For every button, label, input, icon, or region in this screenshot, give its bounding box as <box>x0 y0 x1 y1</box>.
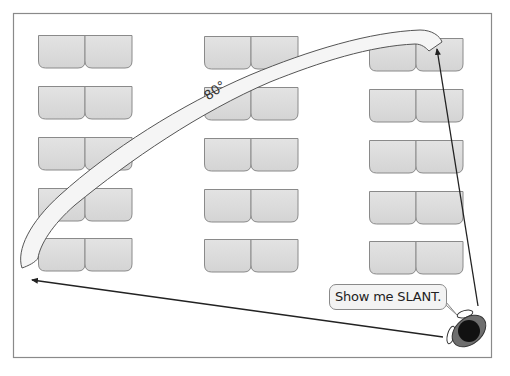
desk-group <box>370 141 464 174</box>
speech-bubble: Show me SLANT. <box>329 284 447 310</box>
desk-group <box>205 139 299 172</box>
desk-group <box>39 239 133 272</box>
desk-group <box>39 87 133 120</box>
desk-group <box>370 90 464 123</box>
desk-group <box>39 36 133 69</box>
teacher-head <box>458 320 480 342</box>
desk-group <box>370 192 464 225</box>
classroom-diagram <box>0 0 510 376</box>
desk-group <box>370 242 464 275</box>
desk-group <box>205 190 299 223</box>
desk-group <box>205 240 299 273</box>
